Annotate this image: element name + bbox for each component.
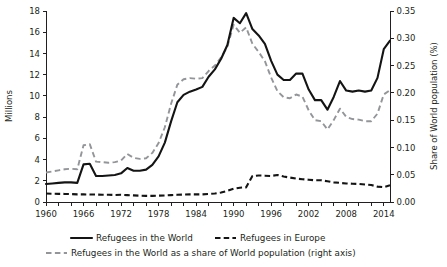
x-axis-tick-label: 1966 [73, 209, 95, 219]
y-axis-right-tick-label: 0.00 [397, 197, 416, 207]
legend-label-share-of-world-population: Refugees in the World as a share of Worl… [71, 248, 356, 258]
x-axis: 1960196619721978198419901996200220082014 [35, 202, 394, 219]
x-axis-tick-label: 1990 [223, 209, 245, 219]
y-axis-right-tick-label: 0.20 [397, 88, 416, 98]
series-lines [46, 13, 390, 196]
y-axis-left-tick-label: 2 [35, 176, 40, 186]
y-axis-left-tick-label: 8 [35, 112, 40, 122]
y-axis-right-tick-label: 0.15 [397, 115, 416, 125]
y-axis-left-tick-label: 10 [29, 91, 40, 101]
y-axis-left-tick-label: 16 [29, 27, 40, 37]
y-axis-right-tick-label: 0.05 [397, 170, 416, 180]
x-axis-tick-label: 2014 [373, 209, 395, 219]
left-axis-title: Millions [4, 90, 14, 122]
y-axis-left-tick-label: 0 [35, 197, 40, 207]
y-axis-left-tick-label: 14 [29, 49, 40, 59]
refugees-chart: Millions Share of World population (%) 0… [0, 0, 447, 267]
y-axis-right-tick-label: 0.30 [397, 33, 416, 43]
y-axis-left-tick-label: 18 [29, 6, 40, 16]
x-axis-tick-label: 1978 [148, 209, 170, 219]
y-axis-right: 0.000.050.100.150.200.250.300.35 [390, 6, 415, 207]
x-axis-tick-label: 2002 [298, 209, 320, 219]
x-axis-tick-label: 1996 [260, 209, 282, 219]
y-axis-right-tick-label: 0.35 [397, 6, 416, 16]
x-axis-tick-label: 2008 [335, 209, 357, 219]
series-line-share-of-world-population [46, 25, 390, 173]
y-axis-left-tick-label: 6 [35, 133, 40, 143]
x-axis-tick-label: 1972 [110, 209, 132, 219]
y-axis-left-tick-label: 4 [35, 155, 40, 165]
right-axis-title: Share of World population (%) [429, 42, 439, 170]
y-axis-left-tick-label: 12 [29, 70, 40, 80]
chart-legend: Refugees in the WorldRefugees in EuropeR… [46, 233, 356, 258]
legend-label-refugees-europe: Refugees in Europe [240, 233, 325, 243]
series-line-refugees-europe [46, 175, 390, 196]
y-axis-left: 024681012141618 [29, 6, 46, 207]
y-axis-right-tick-label: 0.10 [397, 143, 416, 153]
x-axis-tick-label: 1960 [35, 209, 57, 219]
y-axis-right-tick-label: 0.25 [397, 61, 416, 71]
chart-plot-area: Millions Share of World population (%) 0… [0, 0, 447, 267]
legend-label-refugees-world: Refugees in the World [96, 233, 193, 243]
series-line-refugees-world [46, 13, 390, 184]
x-axis-tick-label: 1984 [185, 209, 207, 219]
